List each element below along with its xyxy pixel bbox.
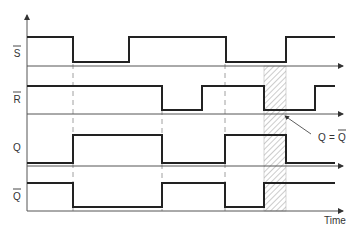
svg-text:Q: Q	[13, 142, 21, 153]
svg-text:S: S	[14, 48, 21, 59]
annotation-q-equals-q-bar: Q = Q	[318, 130, 346, 143]
r-bar-waveform	[27, 86, 335, 110]
svg-text:R: R	[13, 94, 20, 105]
signal-label-q-bar: Q	[13, 189, 21, 202]
q-waveform	[27, 135, 335, 163]
svg-text:Q: Q	[318, 132, 326, 143]
x-axis-label: Time	[324, 215, 346, 226]
signal-label-s-bar: S	[13, 46, 21, 59]
q-bar-waveform	[27, 183, 335, 207]
svg-text:Q: Q	[13, 191, 21, 202]
s-bar-waveform	[27, 37, 335, 62]
timing-diagram: S R Q Q Q = Q Time	[0, 0, 361, 240]
svg-text:Q: Q	[338, 132, 346, 143]
annotation-pointer	[285, 116, 311, 134]
svg-text:=: =	[329, 132, 335, 143]
signal-label-r-bar: R	[13, 92, 21, 105]
hatched-region	[264, 66, 286, 211]
signal-label-q: Q	[13, 142, 21, 153]
